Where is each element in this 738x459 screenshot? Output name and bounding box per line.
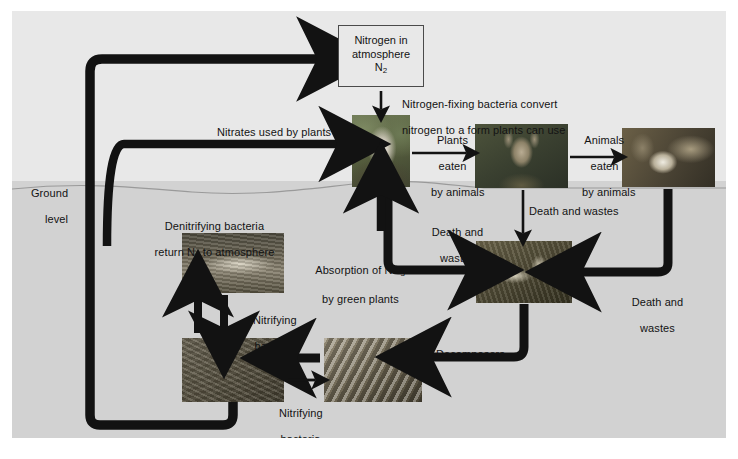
nitrogen-fixing-line1: Nitrogen-fixing bacteria convert xyxy=(402,98,557,110)
death-wastes-right-line1: Death and xyxy=(632,296,684,308)
nitrates-used-label: Nitrates used by plants xyxy=(217,126,387,139)
denitrifying-line2b: to atmosphere xyxy=(200,246,275,258)
animals-eaten-line2: eaten xyxy=(590,160,618,172)
plants-eaten-line2: eaten xyxy=(438,160,466,172)
nitrifying-upper-label: Nitrifying bacteria xyxy=(234,301,296,366)
decomposers-label: Decomposers xyxy=(436,348,516,361)
atmosphere-line1: Nitrogen in xyxy=(354,34,407,46)
animals-eaten-label: Animals eaten by animals xyxy=(563,121,627,212)
plants-eaten-line3: by animals xyxy=(431,186,485,198)
atmosphere-box: Nitrogen in atmosphere N2 xyxy=(338,25,424,87)
plants-eaten-label: Plants eaten by animals xyxy=(412,121,474,212)
absorption-line1: Absorption of NH xyxy=(315,264,400,276)
ground-level-label: Ground level xyxy=(12,174,68,239)
atmosphere-line3: N xyxy=(375,61,383,73)
bacteria-photo xyxy=(324,338,422,402)
denitrifying-line2a: return N xyxy=(155,246,196,258)
plants-eaten-line1: Plants xyxy=(437,134,468,146)
death-wastes-left-line2: wastes xyxy=(440,252,475,264)
death-wastes-right-line2: wastes xyxy=(640,322,675,334)
death-wastes-left-label: Death and wastes xyxy=(412,213,484,278)
figure-canvas: Nitrogen in atmosphere N2 Ground level D… xyxy=(0,0,738,459)
ground-level-line2: level xyxy=(45,213,68,225)
ground-level-line1: Ground xyxy=(31,187,68,199)
denitrifying-label: Denitrifying bacteria return N2 to atmos… xyxy=(100,207,310,275)
absorption-label: Absorption of NH3 by green plants xyxy=(290,251,412,319)
absorption-line2: by green plants xyxy=(322,293,399,305)
nitrifying-upper-line1: Nitrifying xyxy=(253,314,297,326)
absorption-subscript: 3 xyxy=(401,269,406,278)
nitrifying-lower-line2: bacteria xyxy=(281,433,321,438)
death-wastes-right-label: Death and wastes xyxy=(609,283,687,348)
death-wastes-top-label: Death and wastes xyxy=(529,205,659,218)
nitrifying-lower-label: Nitrifying bacteria xyxy=(260,394,322,438)
atmosphere-line2: atmosphere xyxy=(352,48,410,60)
nitrogen-cycle-diagram: Nitrogen in atmosphere N2 Ground level D… xyxy=(12,11,726,438)
carcass-photo xyxy=(476,241,572,303)
nitrifying-upper-line2: bacteria xyxy=(255,340,295,352)
atmosphere-subscript: 2 xyxy=(383,66,387,75)
nitrifying-lower-line1: Nitrifying xyxy=(279,407,323,419)
animals-eaten-line3: by animals xyxy=(582,186,636,198)
denitrifying-line1: Denitrifying bacteria xyxy=(165,220,264,232)
death-wastes-left-line1: Death and xyxy=(432,226,484,238)
animals-eaten-line1: Animals xyxy=(584,134,624,146)
